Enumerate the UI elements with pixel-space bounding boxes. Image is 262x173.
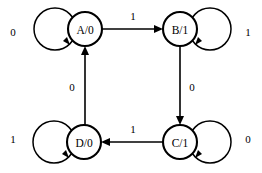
state-node-c[interactable]: C/1 [163, 125, 197, 159]
fsm-canvas: A/0 B/1 C/1 D/0 0 1 0 1 1 0 1 0 [0, 0, 262, 173]
state-node-d[interactable]: D/0 [67, 125, 101, 159]
transition-a-to-b-label: 1 [130, 10, 136, 22]
self-loop-a-label: 0 [10, 26, 16, 38]
self-loop-d-label: 1 [10, 133, 16, 145]
self-loop-a-arrowhead [63, 37, 70, 45]
state-node-a-label: A/0 [76, 24, 94, 36]
state-node-d-label: D/0 [75, 137, 93, 149]
transition-c-to-d-arrowhead [101, 138, 110, 146]
state-node-c-label: C/1 [172, 137, 189, 149]
transition-b-to-c-arrowhead [176, 116, 184, 125]
transition-d-to-a-label: 0 [69, 81, 75, 93]
self-loop-d-arrowhead [62, 150, 69, 158]
state-machine-diagram: A/0 B/1 C/1 D/0 0 1 0 1 1 0 1 0 [0, 0, 262, 173]
state-node-b-label: B/1 [172, 24, 189, 36]
self-loop-b-arrowhead [195, 37, 202, 45]
transition-c-to-d [101, 138, 163, 146]
self-loop-c-arrowhead [195, 150, 202, 158]
transition-a-to-b-arrowhead [154, 25, 163, 33]
self-loop-b-label: 1 [245, 26, 251, 38]
transition-b-to-c-label: 0 [189, 81, 195, 93]
transition-c-to-d-label: 1 [130, 123, 136, 135]
state-node-b[interactable]: B/1 [163, 12, 197, 46]
self-loop-c-label: 0 [245, 133, 251, 145]
transition-a-to-b [102, 25, 163, 33]
transition-d-to-a [81, 46, 89, 125]
transition-d-to-a-arrowhead [81, 46, 89, 55]
state-node-a[interactable]: A/0 [68, 12, 102, 46]
transition-b-to-c [176, 46, 184, 125]
